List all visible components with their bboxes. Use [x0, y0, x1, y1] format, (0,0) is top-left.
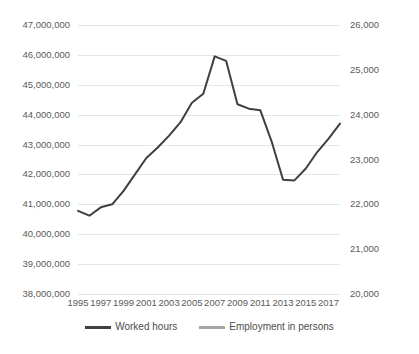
y-axis-left-tick-label: 45,000,000 [0, 80, 70, 90]
x-axis-tick-label: 2001 [136, 298, 157, 308]
plot-area [78, 25, 340, 294]
x-axis-tick-label: 2003 [159, 298, 180, 308]
x-axis-tick-label: 1995 [67, 298, 88, 308]
y-axis-right-tick-label: 26,000 [350, 20, 410, 30]
y-axis-left-tick-label: 47,000,000 [0, 20, 70, 30]
legend-label: Worked hours [115, 322, 177, 332]
x-axis-tick-label: 2017 [318, 298, 339, 308]
legend-swatch-icon [85, 326, 111, 329]
x-axis-tick-label: 2015 [295, 298, 316, 308]
x-axis-tick-label: 2005 [181, 298, 202, 308]
x-axis-tick-label: 2011 [250, 298, 270, 308]
y-axis-left-tick-label: 38,000,000 [0, 289, 70, 299]
y-axis-left-tick-label: 42,000,000 [0, 169, 70, 179]
y-axis-left-tick-label: 46,000,000 [0, 50, 70, 60]
y-axis-left-tick-label: 40,000,000 [0, 229, 70, 239]
y-axis-right-tick-label: 23,000 [350, 155, 410, 165]
legend-label: Employment in persons [229, 322, 334, 332]
y-axis-right-tick-label: 20,000 [350, 289, 410, 299]
y-axis-left-tick-label: 41,000,000 [0, 199, 70, 209]
gridline [78, 294, 340, 295]
x-axis-tick-label: 1997 [90, 298, 111, 308]
x-axis-tick-label: 2009 [227, 298, 248, 308]
legend-item[interactable]: Employment in persons [199, 322, 334, 332]
chart-container: 47,000,00046,000,00045,000,00044,000,000… [0, 0, 419, 354]
y-axis-left-tick-label: 39,000,000 [0, 259, 70, 269]
y-axis-right-tick-label: 21,000 [350, 244, 410, 254]
y-axis-left-tick-label: 44,000,000 [0, 110, 70, 120]
x-axis-tick-label: 1999 [113, 298, 134, 308]
series-lines [78, 25, 340, 294]
legend-swatch-icon [199, 326, 225, 329]
y-axis-right-tick-label: 25,000 [350, 65, 410, 75]
y-axis-right-tick-label: 24,000 [350, 110, 410, 120]
series-line [78, 56, 340, 215]
x-axis-tick-label: 2013 [272, 298, 293, 308]
legend-item[interactable]: Worked hours [85, 322, 177, 332]
y-axis-left-tick-label: 43,000,000 [0, 140, 70, 150]
x-axis-tick-label: 2007 [204, 298, 225, 308]
chart-legend: Worked hoursEmployment in persons [0, 322, 419, 332]
y-axis-right-tick-label: 22,000 [350, 199, 410, 209]
x-axis: 1995199719992001200320052007200920112013… [78, 298, 340, 312]
